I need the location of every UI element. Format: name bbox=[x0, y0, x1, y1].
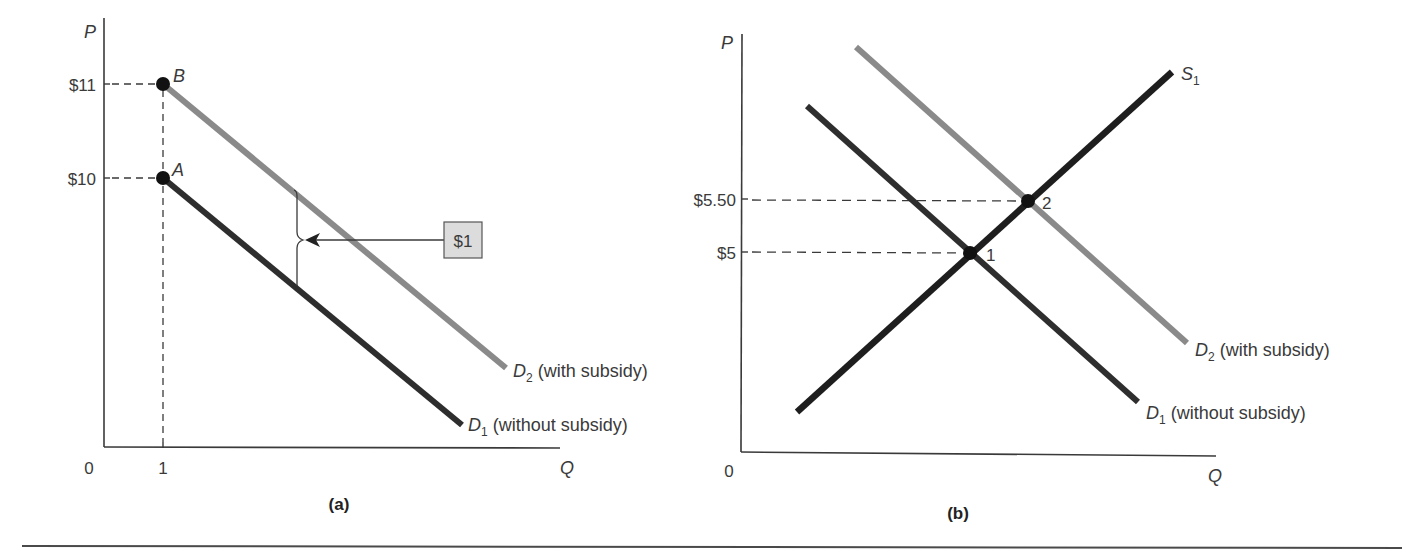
panel-a-y-tick-10: $10 bbox=[68, 170, 96, 189]
panel-a-point-b-label: B bbox=[173, 66, 185, 86]
panel-a-point-a-label: A bbox=[171, 160, 184, 180]
panel-b-point-2-marker bbox=[1021, 194, 1035, 208]
panel-a-y-tick-11: $11 bbox=[69, 76, 96, 95]
panel-a-point-b-marker bbox=[156, 77, 170, 91]
panel-b-y-tick-550: $5.50 bbox=[693, 191, 736, 210]
panel-b-guide-h-550 bbox=[752, 200, 1020, 201]
panel-a-point-a-marker bbox=[156, 171, 170, 185]
figure-canvas: P Q $11 $10 0 1 B A $1 D2 (with subsidy) bbox=[0, 0, 1409, 557]
panel-a-x-axis bbox=[104, 447, 560, 448]
panel-a-brace-icon bbox=[294, 190, 303, 286]
panel-b-point-2-label: 2 bbox=[1042, 194, 1051, 213]
panel-a-x-tick-1: 1 bbox=[158, 459, 167, 478]
panel-b-point-1-marker bbox=[963, 246, 977, 260]
panel-b-point-1-label: 1 bbox=[986, 246, 995, 265]
panel-b-guide-h-5 bbox=[752, 252, 962, 253]
panel-b-s1-label: S1 bbox=[1181, 64, 1200, 88]
figure-bottom-rule bbox=[22, 546, 1402, 548]
panel-b-x-tick-0: 0 bbox=[724, 462, 733, 481]
panel-b-d2-label: D2 (with subsidy) bbox=[1195, 340, 1330, 364]
panel-b-y-axis-label: P bbox=[721, 33, 733, 53]
panel-b-d1-label: D1 (without subsidy) bbox=[1146, 403, 1306, 427]
panel-a-x-axis-label: Q bbox=[560, 458, 574, 478]
panel-a-d2-label: D2 (with subsidy) bbox=[513, 361, 648, 385]
panel-b: P Q $5.50 $5 0 1 2 S1 D2 (with subsidy) … bbox=[693, 33, 1329, 523]
panel-b-s1-curve bbox=[797, 72, 1172, 412]
panel-a-caption: (a) bbox=[329, 495, 350, 514]
panel-b-y-axis bbox=[741, 34, 742, 452]
panel-b-x-axis-label: Q bbox=[1208, 466, 1222, 486]
panel-a-y-axis-label: P bbox=[84, 22, 96, 42]
panel-b-x-axis bbox=[741, 452, 1216, 456]
panel-a-subsidy-label: $1 bbox=[454, 232, 473, 251]
panel-b-y-tick-5: $5 bbox=[717, 244, 736, 263]
panel-a: P Q $11 $10 0 1 B A $1 D2 (with subsidy) bbox=[68, 18, 648, 514]
panel-a-d1-label: D1 (without subsidy) bbox=[468, 415, 628, 439]
panel-a-d1-curve bbox=[163, 178, 462, 425]
panel-a-x-tick-0: 0 bbox=[84, 459, 93, 478]
panel-b-caption: (b) bbox=[947, 504, 969, 523]
